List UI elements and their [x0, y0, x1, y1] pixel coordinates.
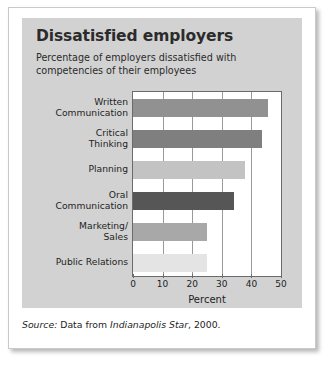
category-label: Marketing/Sales — [36, 220, 128, 242]
category-label-line: Critical — [36, 127, 128, 138]
tick-mark — [251, 274, 252, 278]
bar — [133, 192, 234, 210]
tick-mark — [133, 274, 134, 278]
bar — [133, 161, 245, 179]
chart-subtitle: Percentage of employers dissatisfied wit… — [36, 51, 286, 77]
figure-card: Dissatisfied employers Percentage of emp… — [8, 7, 316, 349]
plot-area — [132, 91, 282, 277]
category-label: CriticalThinking — [36, 127, 128, 149]
gridline — [251, 92, 252, 276]
tick-mark — [222, 274, 223, 278]
category-label-line: Public Relations — [36, 256, 128, 267]
category-label-line: Marketing/ — [36, 220, 128, 231]
bar — [133, 130, 262, 148]
bar — [133, 223, 207, 241]
page-title: Dissatisfied employers — [36, 27, 233, 45]
category-label: Public Relations — [36, 256, 128, 267]
category-label-line: Thinking — [36, 138, 128, 149]
source-publication: Indianapolis Star — [110, 319, 188, 330]
tick-label: 20 — [186, 279, 197, 289]
source-prefix: Source: — [22, 319, 57, 330]
source-note: Source: Data from Indianapolis Star, 200… — [22, 319, 221, 330]
category-label-line: Communication — [36, 107, 128, 118]
tick-label: 40 — [246, 279, 257, 289]
category-axis-labels: WrittenCommunicationCriticalThinkingPlan… — [36, 91, 132, 277]
tick-label: 30 — [216, 279, 227, 289]
x-axis-tick-labels: 01020304050 — [132, 279, 282, 293]
category-label-line: Oral — [36, 189, 128, 200]
tick-label: 10 — [157, 279, 168, 289]
tick-label: 50 — [275, 279, 286, 289]
category-label-line: Planning — [36, 163, 128, 174]
bar — [133, 254, 207, 272]
gridline — [192, 92, 193, 276]
tick-mark — [192, 274, 193, 278]
source-text-after: , 2000. — [188, 319, 221, 330]
bar — [133, 99, 268, 117]
source-text-before: Data from — [60, 319, 107, 330]
category-label-line: Communication — [36, 200, 128, 211]
tick-mark — [281, 274, 282, 278]
category-label: Planning — [36, 163, 128, 174]
tick-mark — [163, 274, 164, 278]
plot-wrapper: WrittenCommunicationCriticalThinkingPlan… — [36, 91, 288, 296]
category-label-line: Written — [36, 96, 128, 107]
category-label: WrittenCommunication — [36, 96, 128, 118]
gridline — [163, 92, 164, 276]
tick-label: 0 — [130, 279, 136, 289]
x-axis-title: Percent — [132, 294, 282, 305]
chart-panel: Dissatisfied employers Percentage of emp… — [22, 18, 302, 308]
category-label-line: Sales — [36, 231, 128, 242]
category-label: OralCommunication — [36, 189, 128, 211]
gridline — [222, 92, 223, 276]
